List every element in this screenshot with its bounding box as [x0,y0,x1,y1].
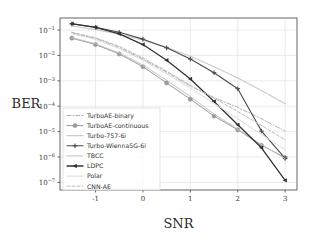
legend-label: LDPC [87,162,103,169]
y-tick-label: 10−4 [39,101,55,111]
legend-label: CNN-AE [87,183,111,190]
x-tick-label: 3 [283,195,287,203]
y-axis-ticks: 10−110−210−310−410−510−610−7 [39,25,60,187]
legend-label: Polar [87,172,103,179]
y-tick-label: 10−6 [39,152,55,162]
x-tick-label: -1 [92,195,99,203]
legend-label: TBCC [86,152,104,159]
x-tick-label: 2 [236,195,240,203]
legend: TurboAE-binaryTurboAE-continuousTurbo-75… [63,108,160,190]
y-tick-label: 10−5 [39,127,55,137]
x-tick-label: 1 [188,195,192,203]
ber-vs-snr-chart: -1012310−110−210−310−410−510−610−7SNRBER… [0,0,312,240]
y-tick-label: 10−7 [39,177,55,187]
legend-label: Turbo-Wienna5G-6i [86,142,146,149]
legend-label: Turbo-757-6i [86,132,126,139]
y-axis-title: BER [12,96,42,111]
legend-label: TurboAE-continuous [86,122,148,129]
x-axis-ticks: -10123 [92,190,287,203]
chart-figure: -1012310−110−210−310−410−510−610−7SNRBER… [0,0,312,240]
y-tick-label: 10−3 [39,76,55,86]
x-axis-title: SNR [163,216,194,231]
legend-label: TurboAE-binary [86,112,134,120]
y-tick-label: 10−1 [39,25,55,35]
data-point-marker [73,124,77,128]
y-tick-label: 10−2 [39,50,55,60]
x-tick-label: 0 [141,195,145,203]
